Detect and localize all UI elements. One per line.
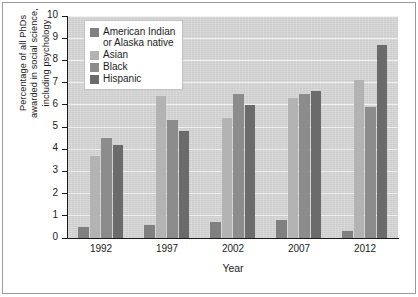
bar <box>210 222 221 238</box>
x-axis-label: Year <box>68 262 398 274</box>
x-tick-label: 1992 <box>74 243 128 254</box>
chart-legend: American Indian or Alaska nativeAsianBla… <box>84 20 183 90</box>
bar <box>233 94 244 238</box>
y-tick-mark <box>62 16 67 17</box>
legend-label: Black <box>103 61 127 73</box>
bar <box>354 80 365 238</box>
y-tick-mark <box>62 171 67 172</box>
bar <box>144 225 155 238</box>
bar <box>90 156 101 238</box>
y-tick-mark <box>62 104 67 105</box>
bar <box>167 120 178 238</box>
y-tick-mark <box>62 193 67 194</box>
y-tick-label: 2 <box>38 187 58 198</box>
y-tick-mark <box>62 82 67 83</box>
bar <box>78 227 89 238</box>
bar <box>113 145 124 238</box>
bar <box>365 107 376 238</box>
y-tick-label: 1 <box>38 209 58 220</box>
y-tick-mark <box>62 60 67 61</box>
y-tick-mark <box>62 238 67 239</box>
x-tick-label: 2002 <box>206 243 260 254</box>
bar <box>179 131 190 238</box>
gridline <box>68 16 398 17</box>
x-tick-label: 2012 <box>338 243 392 254</box>
bar <box>288 98 299 238</box>
bar <box>276 220 287 238</box>
y-tick-mark <box>62 149 67 150</box>
bar <box>245 105 256 238</box>
bar <box>299 94 310 238</box>
y-axis-line <box>67 16 68 239</box>
y-tick-label: 4 <box>38 142 58 153</box>
x-tick-label: 2007 <box>272 243 326 254</box>
bar <box>377 45 388 238</box>
legend-item: Black <box>90 61 175 73</box>
y-tick-label: 8 <box>38 53 58 64</box>
x-tick-label: 1997 <box>140 243 194 254</box>
legend-swatch-icon <box>90 51 99 60</box>
legend-label: Asian <box>103 49 128 61</box>
legend-item: Hispanic <box>90 73 175 85</box>
bar <box>311 91 322 238</box>
legend-swatch-icon <box>90 75 99 84</box>
y-tick-label: 6 <box>38 98 58 109</box>
y-tick-mark <box>62 127 67 128</box>
y-tick-label: 0 <box>38 231 58 242</box>
x-axis-line <box>67 238 399 239</box>
legend-label: Hispanic <box>103 73 141 85</box>
legend-item: Asian <box>90 49 175 61</box>
y-tick-mark <box>62 215 67 216</box>
y-tick-label: 3 <box>38 164 58 175</box>
bar <box>101 138 112 238</box>
y-tick-label: 5 <box>38 120 58 131</box>
bar-chart-figure: Percentage of all PhDs awarded in social… <box>0 0 418 297</box>
bar <box>222 118 233 238</box>
legend-swatch-icon <box>90 28 99 37</box>
bar <box>156 96 167 238</box>
y-tick-label: 7 <box>38 76 58 87</box>
y-tick-mark <box>62 38 67 39</box>
y-tick-label: 10 <box>38 9 58 20</box>
legend-swatch-icon <box>90 63 99 72</box>
legend-item: American Indian or Alaska native <box>90 26 175 49</box>
legend-label: American Indian or Alaska native <box>103 26 175 49</box>
y-tick-label: 9 <box>38 31 58 42</box>
bar <box>342 231 353 238</box>
